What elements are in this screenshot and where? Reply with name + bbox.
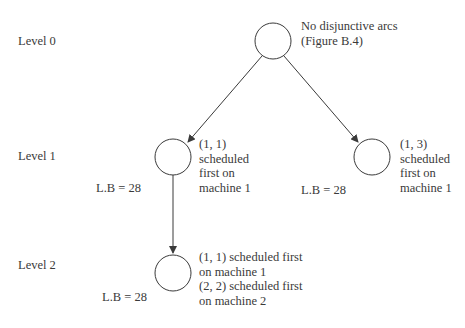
- level-1-label: Level 1: [18, 149, 56, 164]
- n22-lower-bound: L.B = 28: [102, 290, 147, 305]
- n22-annotation: (1, 1) scheduled first on machine 1 (2, …: [199, 250, 302, 308]
- edge-root-to-n13: [284, 56, 358, 142]
- level-0-label: Level 0: [18, 34, 56, 49]
- n11-lower-bound: L.B = 28: [96, 181, 141, 196]
- n13-lower-bound: L.B = 28: [301, 183, 346, 198]
- edge-root-to-n11: [188, 56, 262, 142]
- n13-annotation: (1, 3) scheduled first on machine 1: [400, 137, 452, 195]
- node-n13: [354, 139, 390, 175]
- level-2-label: Level 2: [18, 258, 56, 273]
- root-annotation: No disjunctive arcs (Figure B.4): [301, 19, 398, 48]
- node-root: [255, 23, 291, 59]
- n11-annotation: (1, 1) scheduled first on machine 1: [199, 137, 251, 195]
- node-n22: [155, 255, 191, 291]
- node-n11: [155, 139, 191, 175]
